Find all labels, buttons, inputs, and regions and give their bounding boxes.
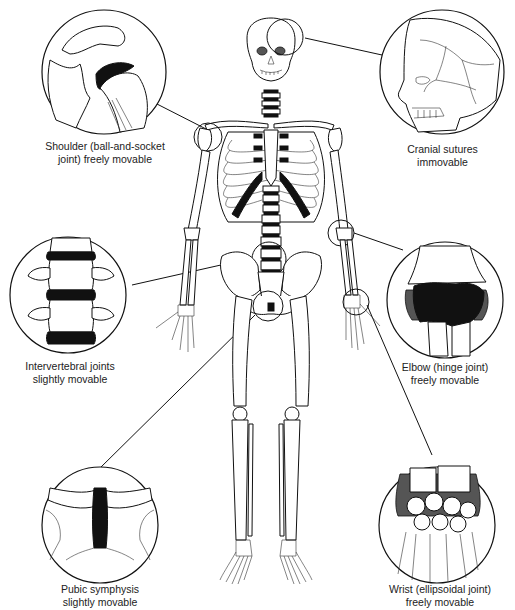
- intervertebral-detail-circle: [10, 237, 126, 353]
- shoulder-label-line1: Shoulder (ball-and-socket: [20, 140, 190, 153]
- pubic-label-line2: slightly movable: [35, 596, 165, 609]
- intervertebral-label-line1: Intervertebral joints: [5, 360, 135, 373]
- shoulder-detail-circle: [42, 10, 166, 134]
- cranial-label: Cranial sutures immovable: [380, 143, 505, 169]
- skeleton-joints-diagram: [0, 0, 515, 610]
- cranial-label-line2: immovable: [380, 156, 505, 169]
- pubic-label-line1: Pubic symphysis: [35, 583, 165, 596]
- wrist-label-line1: Wrist (ellipsoidal joint): [370, 583, 510, 596]
- wrist-detail-circle: [379, 466, 495, 583]
- cranial-label-line1: Cranial sutures: [380, 143, 505, 156]
- elbow-detail-circle: [387, 242, 503, 358]
- pubic-detail-circle: [42, 467, 158, 583]
- shoulder-label-line2: joint) freely movable: [20, 153, 190, 166]
- wrist-label: Wrist (ellipsoidal joint) freely movable: [370, 583, 510, 609]
- intervertebral-label-line2: slightly movable: [5, 373, 135, 386]
- skeleton: [156, 18, 380, 584]
- pubic-label: Pubic symphysis slightly movable: [35, 583, 165, 609]
- intervertebral-label: Intervertebral joints slightly movable: [5, 360, 135, 386]
- elbow-label-line2: freely movable: [380, 374, 510, 387]
- elbow-label: Elbow (hinge joint) freely movable: [380, 361, 510, 387]
- cranial-detail-circle: [380, 10, 504, 134]
- elbow-label-line1: Elbow (hinge joint): [380, 361, 510, 374]
- shoulder-label: Shoulder (ball-and-socket joint) freely …: [20, 140, 190, 166]
- wrist-label-line2: freely movable: [370, 596, 510, 609]
